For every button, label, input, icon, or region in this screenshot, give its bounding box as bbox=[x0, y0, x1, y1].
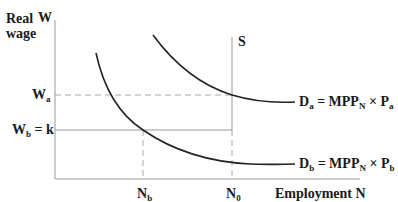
y-axis-label: Real wage bbox=[6, 11, 36, 41]
supply-label: S bbox=[238, 35, 246, 49]
demand-curve-a bbox=[153, 35, 295, 102]
n0-label: N0 bbox=[226, 187, 241, 202]
y-axis-symbol: W bbox=[38, 11, 52, 25]
demand-curve-b bbox=[96, 53, 295, 164]
demand-a-label: Da = MPPN × Pa bbox=[299, 95, 393, 113]
wa-label: Wa bbox=[32, 88, 51, 106]
nb-label: Nb bbox=[137, 187, 152, 202]
x-axis-label: Employment N bbox=[275, 187, 366, 201]
wb-label: Wb = k bbox=[12, 123, 54, 141]
demand-b-label: Db = MPPN × Pb bbox=[299, 157, 394, 175]
